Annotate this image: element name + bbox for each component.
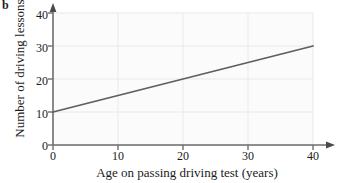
x-axis-arrow-icon (326, 142, 335, 149)
chart-figure: b Number of driving lessons Age on passi… (0, 0, 338, 183)
plot-area (0, 0, 338, 183)
y-axis-arrow-icon (50, 3, 57, 12)
